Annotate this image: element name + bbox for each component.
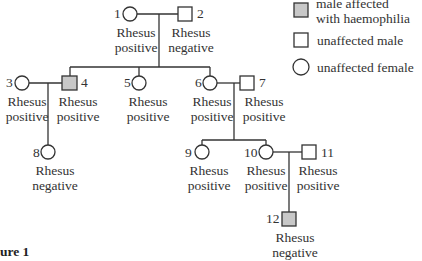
individual-12-number: 12 [266, 211, 280, 226]
legend-unaffected-male-icon [294, 33, 308, 47]
individual-12-rhesus: Rhesusnegative [270, 230, 320, 260]
individual-7-square-icon [240, 76, 254, 90]
individual-3-circle-icon [15, 76, 29, 90]
legend-unaffected-female-label: unaffected female [317, 60, 414, 75]
individual-8-circle-icon [41, 145, 55, 159]
legend-unaffected-male-label: unaffected male [317, 33, 403, 48]
individual-5-circle-icon [132, 76, 146, 90]
individual-3-number: 3 [6, 75, 13, 90]
individual-10-circle-icon [259, 145, 273, 159]
individual-2-number: 2 [197, 6, 204, 21]
individual-5-rhesus: Rhesuspositive [124, 94, 172, 124]
individual-7-rhesus: Rhesuspositive [240, 94, 288, 124]
individual-8-number: 8 [33, 145, 40, 160]
individual-4-shaded-square-icon [62, 76, 77, 90]
individual-12-shaded-square-icon [282, 212, 296, 226]
individual-4-rhesus: Rhesuspositive [54, 94, 102, 124]
legend-unaffected-female-icon [293, 59, 309, 75]
individual-9-circle-icon [195, 145, 209, 159]
individual-11-rhesus: Rhesuspositive [294, 163, 342, 193]
individual-3-rhesus: Rhesuspositive [2, 94, 52, 124]
individual-11-number: 11 [321, 145, 334, 160]
legend-affected-male-icon [294, 3, 308, 17]
individual-2-rhesus: Rhesusnegative [163, 25, 219, 55]
legend-affected-male-label: male affectedwith haemophilia [316, 0, 410, 26]
individual-4-number: 4 [81, 75, 88, 90]
individual-10-rhesus: Rhesuspositive [242, 163, 290, 193]
individual-10-number: 10 [244, 145, 258, 160]
individual-8-rhesus: Rhesusnegative [30, 163, 80, 193]
individual-6-circle-icon [203, 76, 217, 90]
individual-7-number: 7 [259, 75, 266, 90]
individual-1-rhesus: Rhesuspositive [112, 25, 160, 55]
individual-9-rhesus: Rhesuspositive [185, 163, 233, 193]
individual-9-number: 9 [185, 145, 192, 160]
individual-5-number: 5 [124, 75, 131, 90]
individual-1-circle-icon [123, 7, 137, 21]
individual-1-number: 1 [114, 6, 121, 21]
individual-6-number: 6 [195, 75, 202, 90]
individual-2-square-icon [178, 7, 192, 21]
individual-6-rhesus: Rhesuspositive [188, 94, 236, 124]
figure-caption: ure 1 [0, 244, 29, 260]
individual-11-square-icon [302, 145, 316, 159]
